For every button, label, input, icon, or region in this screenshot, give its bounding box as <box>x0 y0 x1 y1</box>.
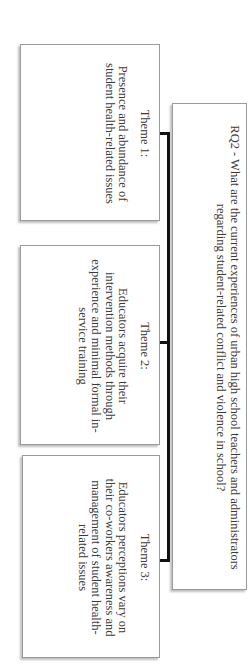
connector-theme-2 <box>160 341 170 344</box>
theme-2-text: Educators acquire their intervention met… <box>76 259 131 433</box>
connector-theme-3 <box>160 559 170 562</box>
connector-theme-1 <box>160 132 170 135</box>
theme-1-title: Theme 1: <box>138 53 152 214</box>
theme-3-box: Theme 3: Educators perceptions vary on t… <box>22 455 160 658</box>
theme-2-box: Theme 2: Educators acquire their interve… <box>20 245 160 445</box>
research-question-text: RQ2 - What are the current experiences o… <box>214 125 242 569</box>
theme-2-title: Theme 2: <box>138 258 152 434</box>
theme-1-box: Theme 1: Presence and abundance of stude… <box>20 44 160 221</box>
theme-1-text: Presence and abundance of student health… <box>103 63 131 204</box>
connector-trunk <box>167 132 170 562</box>
theme-3-text: Educators perceptions vary on their co-w… <box>76 479 131 637</box>
theme-3-title: Theme 3: <box>138 470 152 645</box>
research-question-box: RQ2 - What are the current experiences o… <box>172 103 247 590</box>
